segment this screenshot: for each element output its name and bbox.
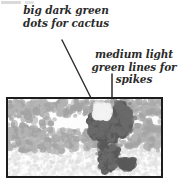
- cactus-scene-image: [8, 99, 161, 176]
- scan-artifact-mark: [1, 1, 21, 4]
- annotation-cactus-dots: big dark green dots for cactus: [23, 4, 109, 29]
- annotation-cactus-dots-line-2: dots for cactus: [23, 17, 109, 30]
- annotation-spike-lines-line-1: medium light: [88, 48, 180, 61]
- annotation-spike-lines: medium light green lines for spikes: [88, 48, 180, 86]
- annotation-spike-lines-line-3: spikes: [88, 73, 180, 86]
- annotation-spike-lines-line-2: green lines for: [88, 61, 180, 74]
- annotation-cactus-dots-line-1: big dark green: [23, 4, 109, 17]
- cactus-photo-inner: [8, 99, 161, 176]
- cactus-photo-frame: [6, 97, 163, 178]
- diagram-canvas: big dark green dots for cactus medium li…: [0, 0, 183, 188]
